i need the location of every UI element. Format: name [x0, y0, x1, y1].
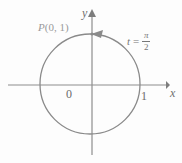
point-name: P	[38, 21, 45, 33]
point-label: P(0, 1)	[38, 22, 69, 33]
parameter-label: t = π 2	[127, 31, 150, 52]
parameter-variable: t	[127, 36, 130, 47]
fraction: π 2	[142, 31, 150, 52]
fraction-numerator: π	[143, 31, 150, 41]
figure-canvas	[0, 0, 182, 163]
terminal-point-marker	[90, 32, 93, 35]
y-axis-label: y	[82, 7, 87, 19]
equals-sign: =	[132, 36, 140, 47]
fraction-denominator: 2	[143, 42, 150, 52]
y-axis-arrowhead	[88, 9, 96, 17]
unit-circle	[40, 34, 140, 134]
origin-label: 0	[66, 88, 72, 100]
point-coordinates: (0, 1)	[45, 21, 69, 33]
x-axis-label: x	[170, 87, 175, 99]
unit-circle-figure: y x 0 1 P(0, 1) t = π 2	[0, 0, 182, 163]
x-tick-label-one: 1	[141, 90, 147, 102]
